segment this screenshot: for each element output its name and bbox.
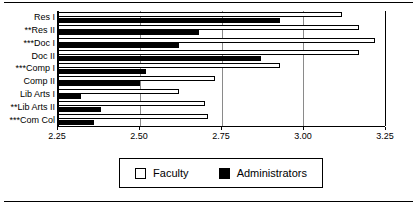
figure-top-rule bbox=[4, 2, 413, 3]
category-label: Doc II bbox=[31, 51, 55, 61]
category-row: Res I bbox=[58, 11, 385, 24]
bar-administrators bbox=[58, 81, 140, 86]
bar-chart-figure: Res I**Res II***Doc IDoc II***Comp IComp… bbox=[0, 0, 417, 205]
bar-faculty bbox=[58, 12, 342, 17]
x-tick-mark-3.25 bbox=[385, 127, 386, 130]
x-axis: 2.252.502.753.003.25 bbox=[57, 127, 385, 147]
bar-administrators bbox=[58, 18, 280, 23]
bar-administrators bbox=[58, 94, 81, 99]
x-tick-label: 2.50 bbox=[130, 131, 148, 142]
category-label: Res I bbox=[34, 12, 55, 22]
category-label: **Lib Arts II bbox=[10, 102, 55, 112]
legend-label-faculty: Faculty bbox=[153, 167, 188, 180]
bar-administrators bbox=[58, 107, 101, 112]
bar-faculty bbox=[58, 25, 359, 30]
legend-entry-faculty: Faculty bbox=[135, 167, 188, 180]
category-row: **Lib Arts II bbox=[58, 100, 385, 113]
bar-faculty bbox=[58, 38, 375, 43]
x-tick-label: 2.25 bbox=[48, 131, 66, 142]
gridline-3.25 bbox=[385, 11, 386, 126]
category-label: ***Doc I bbox=[23, 38, 55, 48]
legend-label-administrators: Administrators bbox=[237, 167, 307, 180]
figure-bottom-rule bbox=[4, 201, 413, 202]
category-label: ***Com Col bbox=[9, 115, 55, 125]
category-row: ***Comp I bbox=[58, 62, 385, 75]
plot-area: Res I**Res II***Doc IDoc II***Comp IComp… bbox=[57, 11, 385, 127]
bar-administrators bbox=[58, 120, 94, 125]
bar-faculty bbox=[58, 114, 208, 119]
category-label: Lib Arts I bbox=[20, 89, 55, 99]
x-tick-label: 2.75 bbox=[212, 131, 230, 142]
x-tick-mark-3.00 bbox=[303, 127, 304, 130]
category-row: Doc II bbox=[58, 49, 385, 62]
bar-faculty bbox=[58, 50, 359, 55]
bar-administrators bbox=[58, 69, 146, 74]
x-tick-label: 3.00 bbox=[294, 131, 312, 142]
category-label: **Res II bbox=[24, 25, 55, 35]
category-row: Lib Arts I bbox=[58, 88, 385, 101]
bar-faculty bbox=[58, 101, 205, 106]
x-tick-label: 3.25 bbox=[376, 131, 394, 142]
x-tick-mark-2.25 bbox=[57, 127, 58, 130]
bar-administrators bbox=[58, 56, 261, 61]
category-row: **Res II bbox=[58, 24, 385, 37]
bar-faculty bbox=[58, 89, 179, 94]
bar-faculty bbox=[58, 63, 280, 68]
chart-legend: Faculty Administrators bbox=[119, 158, 323, 188]
x-tick-mark-2.50 bbox=[139, 127, 140, 130]
category-label: Comp II bbox=[23, 76, 55, 86]
hollow-square-swatch-icon bbox=[135, 168, 146, 179]
category-label: ***Comp I bbox=[15, 63, 55, 73]
category-row: Comp II bbox=[58, 75, 385, 88]
bar-administrators bbox=[58, 43, 179, 48]
category-row: ***Doc I bbox=[58, 37, 385, 50]
filled-square-swatch-icon bbox=[219, 168, 230, 179]
category-row: ***Com Col bbox=[58, 113, 385, 126]
bar-administrators bbox=[58, 30, 199, 35]
bar-faculty bbox=[58, 76, 215, 81]
x-tick-mark-2.75 bbox=[221, 127, 222, 130]
legend-entry-administrators: Administrators bbox=[219, 167, 307, 180]
